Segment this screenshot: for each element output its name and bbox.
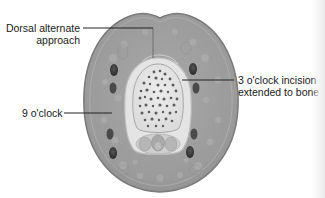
label-dorsal-alternate-approach: Dorsal alternate approach [4, 22, 80, 46]
flexor-tendons [136, 134, 180, 154]
label-3-oclock-line1: 3 o'clock incision [238, 74, 319, 86]
label-dorsal-line1: Dorsal alternate [4, 22, 80, 34]
label-3-oclock-incision: 3 o'clock incision extended to bone [238, 74, 319, 98]
label-9-oclock: 9 o'clock [22, 107, 63, 119]
label-dorsal-line2: approach [4, 34, 80, 46]
right-edge-fade [311, 0, 325, 198]
label-3-oclock-line2: extended to bone [238, 86, 319, 98]
